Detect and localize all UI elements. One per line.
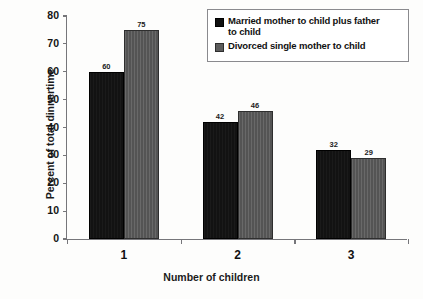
- x-tick-label: 1: [120, 248, 127, 262]
- bar-series-1-category-3: 29: [351, 158, 386, 239]
- bar-series-0-category-2: 42: [203, 122, 238, 239]
- y-tick-label: 20: [47, 176, 59, 188]
- y-tick-label: 30: [47, 148, 59, 160]
- bar-series-1-category-1: 75: [124, 30, 159, 239]
- x-tick-label: 3: [348, 248, 355, 262]
- y-tick-label: 10: [47, 204, 59, 216]
- x-tick-mark: [67, 239, 68, 244]
- y-tick-label: 60: [47, 65, 59, 77]
- x-axis-title: Number of children: [0, 271, 423, 283]
- bar-series-1-category-2: 46: [238, 111, 273, 239]
- y-tick-label: 0: [53, 232, 59, 244]
- y-tick-mark: [63, 99, 68, 100]
- y-tick-label: 40: [47, 121, 59, 133]
- legend-label-series-0: Married mother to child plus fatherto ch…: [228, 15, 380, 37]
- y-tick-mark: [63, 15, 68, 16]
- y-tick-label: 80: [47, 9, 59, 21]
- legend-swatch-icon-series-1: [215, 43, 224, 52]
- y-tick-mark: [63, 71, 68, 72]
- bar-value-label: 46: [251, 101, 259, 110]
- y-tick-label: 50: [47, 93, 59, 105]
- legend-entry-0: Married mother to child plus fatherto ch…: [215, 15, 402, 37]
- bar-series-0-category-3: 32: [316, 150, 351, 239]
- legend-swatch-icon-series-0: [215, 18, 224, 27]
- y-tick-mark: [63, 127, 68, 128]
- bar-value-label: 75: [137, 20, 145, 29]
- bar-value-label: 32: [329, 140, 337, 149]
- legend-label-series-1: Divorced single mother to child: [228, 40, 365, 51]
- x-tick-mark: [181, 239, 182, 244]
- y-tick-mark: [63, 155, 68, 156]
- y-tick-mark: [63, 43, 68, 44]
- y-tick-label: 70: [47, 37, 59, 49]
- y-tick-mark: [63, 183, 68, 184]
- x-tick-label: 2: [234, 248, 241, 262]
- y-tick-mark: [63, 211, 68, 212]
- bar-chart-figure: Percent of total dinnertime 010203040506…: [0, 0, 423, 299]
- legend-entry-1: Divorced single mother to child: [215, 40, 402, 52]
- x-axis-ticks: 123: [67, 239, 407, 245]
- bar-value-label: 60: [102, 62, 110, 71]
- x-tick-mark: [294, 239, 295, 244]
- bar-value-label: 29: [364, 148, 372, 157]
- bar-series-0-category-1: 60: [89, 72, 124, 239]
- bar-value-label: 42: [216, 112, 224, 121]
- x-tick-mark: [408, 239, 409, 244]
- chart-legend: Married mother to child plus fatherto ch…: [207, 9, 409, 62]
